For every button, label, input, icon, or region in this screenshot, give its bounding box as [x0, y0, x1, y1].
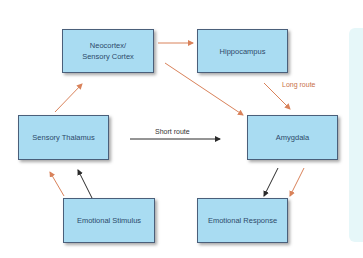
node-neocortex-line1: Neocortex/ — [90, 40, 126, 51]
node-emotional-stimulus: Emotional Stimulus — [63, 198, 155, 243]
node-response-label: Emotional Response — [208, 215, 277, 226]
arrow-amygdala-to-response-orange — [290, 168, 304, 196]
node-neocortex-line2: Sensory Cortex — [82, 51, 134, 62]
short-route-label: Short route — [155, 128, 190, 135]
node-stimulus-label: Emotional Stimulus — [77, 215, 141, 226]
arrow-amygdala-to-response-dark — [264, 168, 278, 196]
node-hippocampus: Hippocampus — [197, 29, 288, 73]
arrow-stimulus-to-thalamus-orange — [50, 172, 64, 196]
long-route-label: Long route — [282, 81, 315, 88]
node-amygdala-label: Amygdala — [276, 132, 309, 143]
node-hippocampus-label: Hippocampus — [220, 46, 266, 57]
node-amygdala: Amygdala — [247, 115, 338, 160]
node-neocortex: Neocortex/ Sensory Cortex — [62, 29, 154, 73]
arrow-thalamus-to-neocortex — [55, 84, 82, 112]
node-emotional-response: Emotional Response — [197, 198, 288, 243]
arrow-stimulus-to-thalamus-dark — [78, 170, 92, 198]
node-thalamus-label: Sensory Thalamus — [32, 132, 94, 143]
node-sensory-thalamus: Sensory Thalamus — [18, 115, 109, 160]
